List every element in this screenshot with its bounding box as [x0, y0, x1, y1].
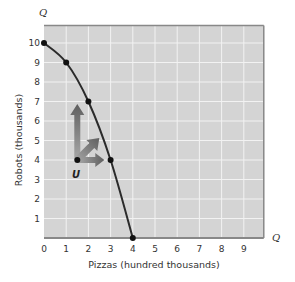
- x-tick-label: 6: [174, 244, 180, 254]
- ppf-chart: 012345678912345678910 Q Q Pizzas (hundre…: [0, 0, 295, 282]
- y-axis-symbol: Q: [39, 7, 47, 18]
- x-axis-symbol: Q: [272, 232, 280, 243]
- y-tick-label: 3: [34, 175, 40, 185]
- y-tick-label: 9: [34, 58, 40, 68]
- y-tick-label: 7: [34, 97, 40, 107]
- y-tick-label: 1: [34, 214, 40, 224]
- y-tick-label: 8: [34, 77, 40, 87]
- x-tick-label: 8: [219, 244, 225, 254]
- x-axis-label: Pizzas (hundred thousands): [88, 259, 219, 270]
- y-tick-label: 5: [34, 136, 40, 146]
- x-tick-label: 9: [241, 244, 247, 254]
- y-tick-label: 2: [34, 194, 40, 204]
- data-point: [130, 235, 136, 241]
- point-u: [74, 157, 80, 163]
- x-tick-label: 0: [41, 244, 47, 254]
- x-tick-label: 4: [130, 244, 136, 254]
- x-tick-label: 3: [108, 244, 114, 254]
- data-point: [108, 157, 114, 163]
- y-axis-label: Robots (thousands): [13, 94, 24, 186]
- point-u-label: U: [72, 169, 80, 180]
- y-tick-label: 4: [34, 155, 40, 165]
- y-tick-label: 6: [34, 116, 40, 126]
- x-tick-label: 1: [63, 244, 69, 254]
- x-tick-label: 7: [197, 244, 203, 254]
- data-point: [41, 40, 47, 46]
- y-tick-label: 10: [29, 38, 41, 48]
- x-tick-label: 5: [152, 244, 158, 254]
- data-point: [63, 60, 69, 66]
- data-point: [85, 99, 91, 105]
- x-tick-label: 2: [86, 244, 92, 254]
